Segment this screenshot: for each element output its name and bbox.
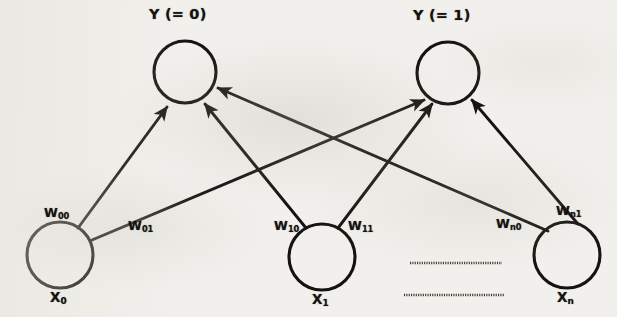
weight-wn0-sub: n0: [510, 222, 521, 232]
weight-wn1-sub: n1: [570, 209, 581, 219]
weight-wn0-base: W: [496, 216, 510, 231]
edge-xn-to-y0: [218, 88, 548, 231]
weight-w11-base: W: [348, 218, 362, 233]
weight-w11-sub: 11: [362, 224, 373, 234]
input-node-x1: [289, 224, 355, 290]
weight-label-w00: W00: [44, 205, 69, 221]
diagram-canvas: [0, 0, 617, 317]
weight-label-wn0: Wn0: [496, 216, 521, 232]
weight-label-wn1: Wn1: [556, 203, 581, 219]
weight-w10-base: W: [274, 218, 288, 233]
weight-label-w11: W11: [348, 218, 373, 234]
edge-x1-to-y1: [338, 104, 432, 228]
neural-network-diagram: Y (= 0) Y (= 1) X0 X1 Xn W00 W01 W10 W11…: [0, 0, 617, 317]
input-node-x1-label: X1: [312, 291, 329, 308]
input-node-x1-base: X: [312, 291, 323, 307]
weight-label-w10: W10: [274, 218, 299, 234]
input-node-x0-sub: 0: [61, 296, 67, 306]
edge-x1-to-y0: [205, 104, 306, 228]
input-node-xn-base: X: [557, 289, 568, 305]
weight-w00-sub: 00: [58, 211, 69, 221]
edge-x0-to-y0: [78, 107, 167, 228]
weight-w10-sub: 10: [288, 224, 299, 234]
weight-wn1-base: W: [556, 203, 570, 218]
weight-w01-sub: 01: [142, 224, 153, 234]
input-node-xn: [534, 222, 600, 288]
input-node-xn-sub: n: [568, 296, 574, 306]
output-node-y0: [154, 41, 216, 103]
input-node-x0: [27, 222, 93, 288]
ellipsis-layer: [404, 263, 504, 295]
weight-w01-base: W: [128, 218, 142, 233]
output-node-y0-label: Y (= 0): [149, 6, 207, 22]
input-node-xn-label: Xn: [557, 289, 574, 306]
weight-w00-base: W: [44, 205, 58, 220]
output-node-y1-label: Y (= 1): [413, 7, 471, 23]
nodes-layer: [27, 41, 600, 290]
input-node-x1-sub: 1: [323, 298, 329, 308]
input-node-x0-base: X: [50, 289, 61, 305]
weight-label-w01: W01: [128, 218, 153, 234]
output-node-y1: [417, 42, 479, 104]
input-node-x0-label: X0: [50, 289, 67, 306]
